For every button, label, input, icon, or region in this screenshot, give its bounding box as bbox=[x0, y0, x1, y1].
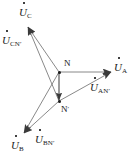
phasor-label-uan-prime-mark: ′ bbox=[108, 87, 110, 95]
phasor-label-ucn-prime-mark: ′ bbox=[20, 40, 22, 48]
node-dot-n-prime bbox=[58, 100, 61, 103]
phasor-dot-ubn-icon bbox=[39, 129, 41, 131]
phasor-label-ucn-symbol: U bbox=[2, 35, 10, 46]
node-label-n-text: N bbox=[64, 58, 71, 68]
phasor-label-uc-symbol: U bbox=[19, 7, 27, 18]
phasor-label-ua-subscript: A bbox=[122, 67, 127, 75]
node-label-n: N bbox=[64, 59, 71, 68]
phasor-dot-uan-icon bbox=[94, 77, 96, 79]
phasor-label-ua-symbol-text: U bbox=[114, 61, 122, 73]
phasor-dot-ucn-icon bbox=[6, 30, 8, 32]
phasor-label-uan-symbol: U bbox=[90, 82, 98, 93]
phasor-label-ubn-prime: UBN′ bbox=[35, 134, 55, 147]
phasor-label-uc-symbol-text: U bbox=[19, 6, 27, 18]
phasor-label-ub-symbol-text: U bbox=[11, 139, 19, 151]
phasor-label-ucn-subscript: CN bbox=[10, 40, 20, 48]
phasor-dot-ub-icon bbox=[15, 135, 17, 137]
node-label-n-prime-mark: ′ bbox=[68, 105, 70, 113]
phasor-label-ua: UA bbox=[114, 62, 127, 75]
phasor-label-ub-subscript: B bbox=[19, 145, 24, 153]
phasor-label-uan-symbol-text: U bbox=[90, 81, 98, 93]
phasor-label-ub: UB bbox=[11, 140, 24, 153]
phasor-label-ua-symbol: U bbox=[114, 62, 122, 73]
phasor-vector-canvas bbox=[0, 0, 140, 163]
phasor-label-ubn-symbol: U bbox=[35, 134, 43, 145]
phasor-line-ucn-prime bbox=[28, 27, 59, 101]
phasor-dot-ua-icon bbox=[118, 57, 120, 59]
phasor-label-ucn-symbol-text: U bbox=[2, 34, 10, 46]
phasor-label-ubn-prime-mark: ′ bbox=[53, 139, 55, 147]
phasor-label-uc: UC bbox=[19, 7, 32, 20]
phasor-line-uc bbox=[28, 27, 59, 72]
phasor-dot-uc-icon bbox=[23, 2, 25, 4]
node-dot-n bbox=[58, 71, 61, 74]
phasor-line-ubn-prime bbox=[24, 101, 59, 133]
phasor-label-ubn-symbol-text: U bbox=[35, 133, 43, 145]
phasor-label-uan-subscript: AN bbox=[98, 87, 109, 95]
phasor-label-uc-subscript: C bbox=[27, 12, 32, 20]
phasor-line-ub bbox=[24, 72, 59, 133]
phasor-label-ucn-prime: UCN′ bbox=[2, 35, 22, 48]
phasor-label-uan-prime: UAN′ bbox=[90, 82, 110, 95]
phasor-diagram-figure: N N′ UC UCN′ UA UAN′ UB UBN′ bbox=[0, 0, 140, 163]
phasor-label-ub-symbol: U bbox=[11, 140, 19, 151]
node-label-n-prime: N′ bbox=[61, 105, 69, 114]
phasor-label-ubn-subscript: BN bbox=[43, 139, 53, 147]
